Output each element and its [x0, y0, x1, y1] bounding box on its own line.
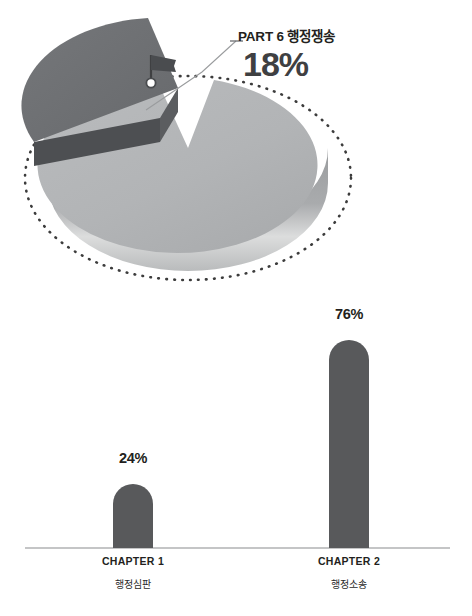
- infographic-page: PART 6 행정쟁송 18% 24% 76% CHAPTER 1 행정심판 C…: [0, 0, 472, 616]
- bar-value-chapter-1: 24%: [93, 450, 173, 466]
- bar-value-chapter-2: 76%: [309, 306, 389, 322]
- pie-callout: PART 6 행정쟁송 18%: [238, 30, 438, 83]
- bar-sublabel-chapter-1: 행정심판: [63, 576, 203, 591]
- bar-category-chapter-1: CHAPTER 1: [63, 555, 203, 567]
- bar-category-chapter-2: CHAPTER 2: [279, 555, 419, 567]
- bar-sublabel-chapter-2: 행정소송: [279, 576, 419, 591]
- bar-chapter-2: [329, 340, 369, 548]
- pie-chart-section: PART 6 행정쟁송 18%: [0, 0, 472, 290]
- bar-chapter-1: [113, 484, 153, 548]
- bar-chart-graphic: [0, 290, 472, 616]
- pie-callout-value: 18%: [243, 47, 438, 83]
- bar-chart-section: 24% 76% CHAPTER 1 행정심판 CHAPTER 2 행정소송: [0, 290, 472, 616]
- pie-callout-title: PART 6 행정쟁송: [238, 30, 438, 45]
